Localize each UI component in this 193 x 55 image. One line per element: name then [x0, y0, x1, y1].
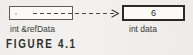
binding-arrow-head	[112, 10, 119, 17]
variable-value: 6	[151, 9, 156, 18]
figure-container: 6 int &refData int data FIGURE 4.1	[0, 0, 193, 55]
scan-speck-icon	[15, 13, 17, 15]
reference-box-label: int &refData	[10, 25, 55, 34]
variable-box: 6	[122, 5, 185, 21]
reference-box	[9, 6, 73, 20]
variable-box-label: int data	[129, 25, 157, 34]
figure-caption: FIGURE 4.1	[6, 38, 77, 50]
